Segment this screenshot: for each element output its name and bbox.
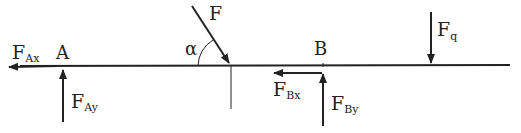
force-f-label: F — [209, 2, 222, 24]
point-b-label: B — [314, 38, 327, 59]
angle-alpha-label: α — [185, 38, 197, 59]
force-fax-arrow — [9, 66, 58, 67]
force-fax-label: FAx — [12, 41, 40, 65]
point-a-label: A — [55, 42, 70, 63]
force-fbx-label: FBx — [273, 78, 301, 102]
force-fq-label: Fq — [437, 18, 457, 43]
beam-line — [20, 65, 510, 66]
beam-diagram: FAx A FAy F α B FBx FBy Fq — [0, 0, 521, 133]
force-fby-label: FBy — [331, 92, 359, 116]
force-fay-label: FAy — [71, 90, 99, 114]
angle-arc — [198, 40, 213, 66]
